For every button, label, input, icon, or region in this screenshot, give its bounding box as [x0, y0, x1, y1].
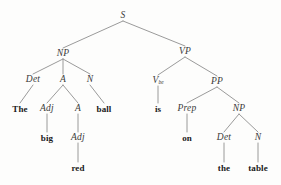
category-node-a1: A [60, 75, 66, 85]
category-node-prep: Prep [178, 104, 197, 114]
terminal-node-red: red [71, 164, 84, 173]
tree-edge [20, 85, 33, 103]
tree-edge [239, 114, 258, 132]
category-node-vp: VP [179, 47, 191, 57]
category-node-det2: Det [217, 133, 231, 143]
tree-edge [224, 114, 239, 132]
category-node-adj1: Adj [40, 104, 54, 114]
terminal-node-on: on [182, 134, 192, 143]
terminal-node-the: the [218, 164, 230, 173]
category-node-det1: Det [26, 75, 40, 85]
terminal-node-big: big [41, 134, 53, 143]
category-node-n1: N [87, 75, 94, 85]
category-node-adj2: Adj [71, 133, 85, 143]
tree-edge [90, 85, 104, 103]
node-subscript: be [158, 79, 163, 85]
tree-edge [63, 59, 90, 74]
terminal-node-table: table [248, 164, 268, 173]
category-node-s: S [121, 11, 126, 21]
tree-edge [63, 21, 123, 48]
tree-edge [187, 87, 217, 103]
terminal-node-is: is [155, 105, 161, 114]
tree-edge [47, 85, 63, 103]
terminal-node-ball: ball [97, 105, 112, 114]
category-node-np2: NP [233, 104, 246, 114]
tree-edges-layer [0, 0, 281, 185]
tree-edge [123, 21, 185, 46]
tree-edge [33, 59, 63, 74]
category-node-pp: PP [211, 77, 223, 87]
terminal-node-the: The [12, 105, 27, 114]
tree-edge [185, 57, 217, 76]
category-node-n2: N [255, 133, 262, 143]
category-node-vbe: Vbe [152, 76, 163, 86]
tree-edge [217, 87, 239, 103]
parse-tree-diagram: SNPVPDetANVbePPTheAdjAballisPrepNPbigAdj… [0, 0, 281, 185]
category-node-a2: A [75, 104, 81, 114]
category-node-np1: NP [57, 49, 70, 59]
tree-edge [158, 57, 185, 75]
tree-edge [63, 85, 78, 103]
